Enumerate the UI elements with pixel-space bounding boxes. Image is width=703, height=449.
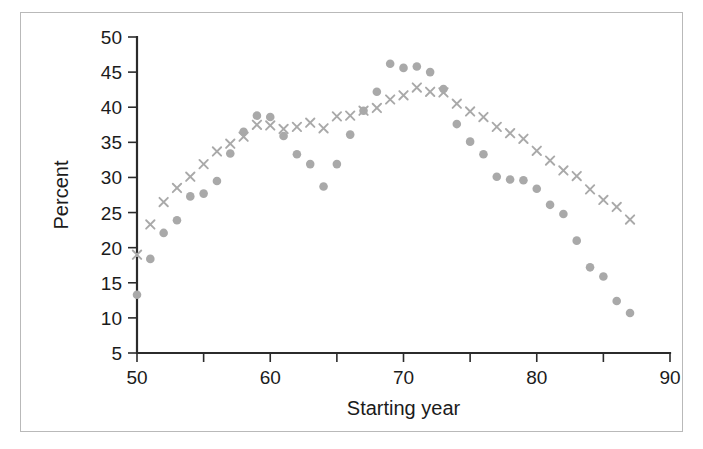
data-point-cross <box>559 166 567 174</box>
data-point-cross <box>306 118 314 126</box>
data-point-dot <box>333 160 342 169</box>
y-tick-label: 20 <box>101 238 122 259</box>
chart-canvas: 51015202530354045505060708090Starting ye… <box>0 0 703 449</box>
data-point-cross <box>613 203 621 211</box>
data-point-cross <box>573 172 581 180</box>
data-point-cross <box>186 173 194 181</box>
data-point-cross <box>479 113 487 121</box>
x-tick-label: 50 <box>126 367 147 388</box>
data-point-dot <box>599 272 608 281</box>
x-tick-label: 60 <box>260 367 281 388</box>
data-point-dot <box>492 172 501 181</box>
data-point-dot <box>399 64 408 73</box>
data-point-cross <box>519 135 527 143</box>
y-tick-label: 15 <box>101 273 122 294</box>
data-point-cross <box>506 129 514 137</box>
data-point-cross <box>146 220 154 228</box>
data-point-dot <box>173 216 182 225</box>
scatter-plot: 51015202530354045505060708090Starting ye… <box>0 0 703 449</box>
data-point-dot <box>133 290 142 299</box>
data-point-cross <box>546 156 554 164</box>
y-tick-label: 35 <box>101 132 122 153</box>
data-point-cross <box>599 196 607 204</box>
data-point-cross <box>373 104 381 112</box>
data-point-dot <box>546 201 555 210</box>
data-point-dot <box>466 137 475 146</box>
data-point-dot <box>226 149 235 158</box>
data-point-cross <box>626 215 634 223</box>
data-point-dot <box>373 87 382 96</box>
series-series-cross <box>133 83 634 259</box>
data-point-dot <box>479 150 488 159</box>
data-point-dot <box>586 263 595 272</box>
y-tick-label: 10 <box>101 308 122 329</box>
data-point-cross <box>293 123 301 131</box>
data-point-cross <box>213 147 221 155</box>
data-point-dot <box>346 130 355 139</box>
y-tick-label: 50 <box>101 27 122 48</box>
data-point-dot <box>386 59 395 68</box>
data-point-cross <box>533 147 541 155</box>
data-point-dot <box>253 111 262 120</box>
data-point-cross <box>266 121 274 129</box>
data-point-cross <box>493 123 501 131</box>
y-tick-label: 40 <box>101 97 122 118</box>
x-tick-label: 80 <box>526 367 547 388</box>
data-point-cross <box>453 100 461 108</box>
x-tick-label: 90 <box>659 367 680 388</box>
data-point-cross <box>173 184 181 192</box>
data-point-dot <box>519 176 528 185</box>
data-point-cross <box>413 83 421 91</box>
data-point-cross <box>159 198 167 206</box>
data-point-dot <box>532 184 541 193</box>
data-point-cross <box>466 107 474 115</box>
data-point-dot <box>199 189 208 198</box>
data-point-cross <box>399 91 407 99</box>
data-point-dot <box>559 210 568 219</box>
data-point-dot <box>626 309 635 318</box>
y-tick-label: 30 <box>101 167 122 188</box>
figure-root: 51015202530354045505060708090Starting ye… <box>0 0 703 449</box>
data-point-dot <box>572 236 581 245</box>
y-tick-label: 45 <box>101 62 122 83</box>
y-tick-label: 5 <box>111 343 122 364</box>
data-point-cross <box>386 95 394 103</box>
data-point-dot <box>506 175 515 184</box>
data-point-dot <box>306 160 315 169</box>
data-point-cross <box>226 140 234 148</box>
data-point-dot <box>266 113 275 122</box>
data-point-cross <box>199 160 207 168</box>
series-series-dot <box>133 59 635 317</box>
data-point-cross <box>346 111 354 119</box>
x-axis-title: Starting year <box>347 397 461 419</box>
data-point-dot <box>146 255 155 264</box>
y-tick-label: 25 <box>101 203 122 224</box>
data-point-dot <box>213 177 222 186</box>
data-point-dot <box>293 150 302 159</box>
data-point-cross <box>319 124 327 132</box>
data-point-dot <box>159 229 168 238</box>
axis-spines <box>137 37 670 353</box>
data-point-dot <box>413 62 422 71</box>
y-axis-title: Percent <box>50 160 72 229</box>
data-point-cross <box>253 121 261 129</box>
data-point-dot <box>319 182 328 191</box>
x-tick-label: 70 <box>393 367 414 388</box>
data-point-dot <box>186 192 195 201</box>
data-point-cross <box>586 185 594 193</box>
data-point-cross <box>333 112 341 120</box>
data-point-dot <box>453 120 462 129</box>
data-point-dot <box>612 297 621 306</box>
data-point-dot <box>426 68 435 77</box>
data-point-cross <box>426 88 434 96</box>
